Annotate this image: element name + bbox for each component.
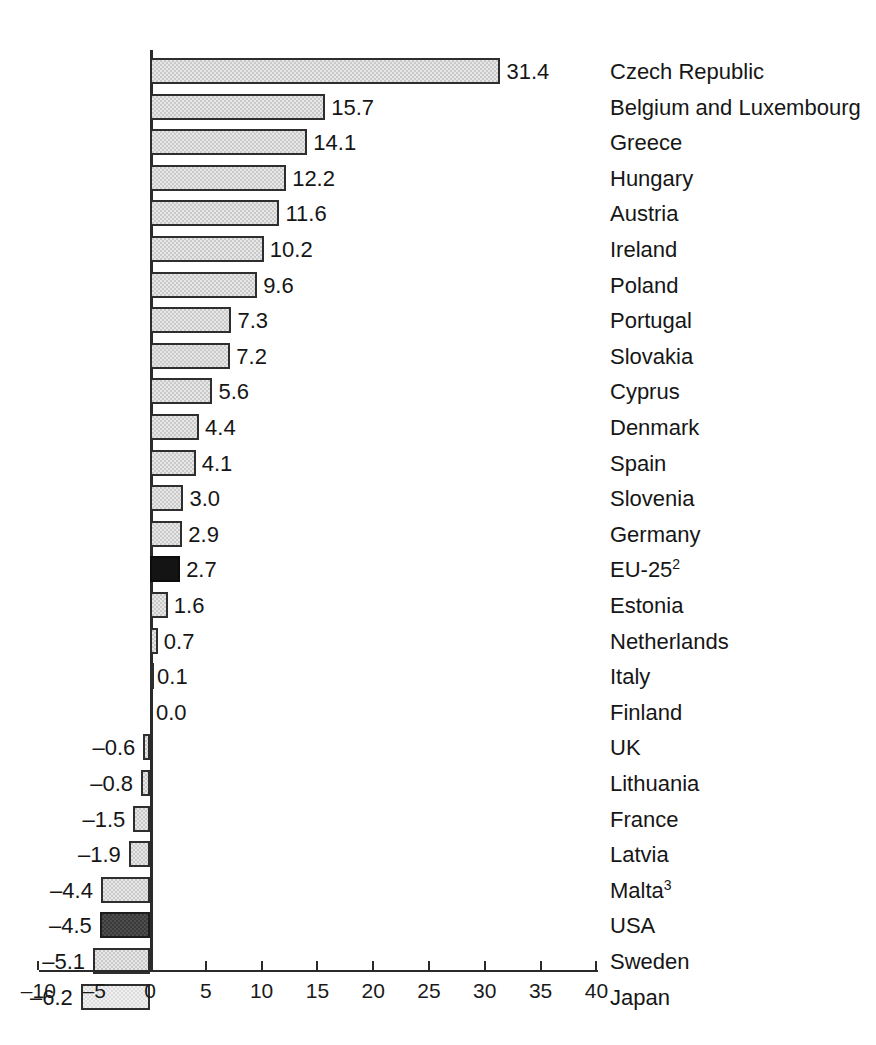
bar-value-label: 10.2 [270, 239, 313, 261]
x-axis-tick-label: –10 [21, 980, 56, 1001]
bar-value-label: 12.2 [292, 168, 335, 190]
category-label: EU-252 [610, 559, 680, 581]
bar [150, 58, 500, 84]
bar [129, 841, 150, 867]
category-label-footnote-marker: 2 [672, 556, 680, 572]
bar [150, 521, 182, 547]
bar-value-label: 7.3 [237, 310, 268, 332]
x-axis-tick [93, 961, 95, 970]
category-label: UK [610, 737, 641, 759]
bar [150, 663, 154, 689]
bar [150, 343, 230, 369]
x-axis-tick [428, 961, 430, 970]
x-axis-tick [372, 961, 374, 970]
x-axis-tick-label: 0 [144, 980, 156, 1001]
x-axis-tick-label: –5 [83, 980, 106, 1001]
bar-value-label: 0.0 [156, 702, 187, 724]
x-axis-tick [149, 961, 151, 970]
x-axis-tick-label: 30 [473, 980, 496, 1001]
category-label: Netherlands [610, 631, 729, 653]
category-label: Estonia [610, 595, 683, 617]
bar-value-label: –4.4 [50, 880, 93, 902]
bar [143, 734, 150, 760]
bar [150, 414, 199, 440]
x-axis-tick-label: 15 [306, 980, 329, 1001]
bar-value-label: 2.9 [188, 524, 219, 546]
x-axis-tick [484, 961, 486, 970]
category-label: Belgium and Luxembourg [610, 97, 861, 119]
bar-value-label: 2.7 [186, 559, 217, 581]
bar [150, 378, 212, 404]
bar-value-label: 7.2 [236, 346, 267, 368]
x-axis-tick [261, 961, 263, 970]
plot-area: 31.415.714.112.211.610.29.67.37.25.64.44… [0, 0, 876, 1045]
bar [150, 592, 168, 618]
bar [150, 450, 196, 476]
category-label: Portugal [610, 310, 692, 332]
bar-value-label: 0.1 [157, 666, 188, 688]
bar [150, 272, 257, 298]
category-label: Finland [610, 702, 682, 724]
x-axis-tick [37, 961, 39, 970]
bar-value-label: 15.7 [331, 97, 374, 119]
x-axis-tick-label: 20 [362, 980, 385, 1001]
category-label: Malta3 [610, 880, 672, 902]
bar [100, 912, 150, 938]
category-label: USA [610, 915, 655, 937]
bar [150, 94, 325, 120]
bar-value-label: –1.9 [78, 844, 121, 866]
bar-value-label: 31.4 [506, 61, 549, 83]
bar-value-label: –0.8 [90, 773, 133, 795]
x-axis-line [39, 970, 598, 972]
bar-value-label: 9.6 [263, 275, 294, 297]
bar [150, 200, 279, 226]
bar [150, 236, 264, 262]
bar [133, 806, 150, 832]
bar [150, 307, 231, 333]
category-label-footnote-marker: 3 [664, 876, 672, 892]
category-label: Poland [610, 275, 679, 297]
bar-value-label: 4.4 [205, 417, 236, 439]
x-axis-tick [595, 961, 597, 970]
category-label: Latvia [610, 844, 669, 866]
category-label: Cyprus [610, 381, 680, 403]
x-axis-tick [205, 961, 207, 970]
category-label: Austria [610, 203, 678, 225]
category-label: Ireland [610, 239, 677, 261]
bar [150, 628, 158, 654]
bar-value-label: 4.1 [202, 453, 233, 475]
category-label: Lithuania [610, 773, 699, 795]
x-axis-tick-label: 40 [585, 980, 608, 1001]
category-label: Italy [610, 666, 650, 688]
category-label: Greece [610, 132, 682, 154]
bar [150, 485, 183, 511]
category-label: Czech Republic [610, 61, 764, 83]
category-label: France [610, 809, 678, 831]
bar-value-label: 14.1 [313, 132, 356, 154]
category-label: Slovakia [610, 346, 693, 368]
category-label: Sweden [610, 951, 690, 973]
category-label: Hungary [610, 168, 693, 190]
bar-value-label: –1.5 [82, 809, 125, 831]
bar [101, 877, 150, 903]
x-axis-tick-label: 5 [200, 980, 212, 1001]
bar-value-label: 1.6 [174, 595, 205, 617]
x-axis-tick [316, 961, 318, 970]
x-axis-tick [540, 961, 542, 970]
category-label: Denmark [610, 417, 699, 439]
x-axis-tick-label: 35 [529, 980, 552, 1001]
bar-value-label: 0.7 [164, 631, 195, 653]
x-axis-tick-label: 10 [250, 980, 273, 1001]
bar-value-label: 5.6 [218, 381, 249, 403]
bar-value-label: –4.5 [49, 915, 92, 937]
bar [141, 770, 150, 796]
bar [150, 556, 180, 582]
category-label: Slovenia [610, 488, 694, 510]
x-axis-tick-label: 25 [417, 980, 440, 1001]
bar-value-label: –0.6 [92, 737, 135, 759]
category-label: Japan [610, 987, 670, 1009]
category-label: Spain [610, 453, 666, 475]
bar [150, 165, 286, 191]
bar-value-label: 3.0 [189, 488, 220, 510]
bar [150, 129, 307, 155]
